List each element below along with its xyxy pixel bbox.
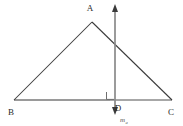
triangle-side-ac (92, 22, 172, 100)
triangle-side-ba (14, 22, 92, 100)
geometry-figure: A B C D m a (0, 0, 183, 126)
right-angle-marker-icon (107, 92, 115, 99)
perpendicular-line-label: m (120, 116, 125, 124)
vertex-label-c: C (168, 107, 174, 117)
arrowhead-top-icon (112, 4, 118, 12)
vertex-label-b: B (8, 107, 14, 117)
figure-canvas: A B C D m a (0, 0, 183, 126)
vertex-label-d: D (115, 103, 122, 113)
perpendicular-line-label-subscript: a (126, 120, 129, 125)
vertex-label-a: A (87, 3, 94, 13)
